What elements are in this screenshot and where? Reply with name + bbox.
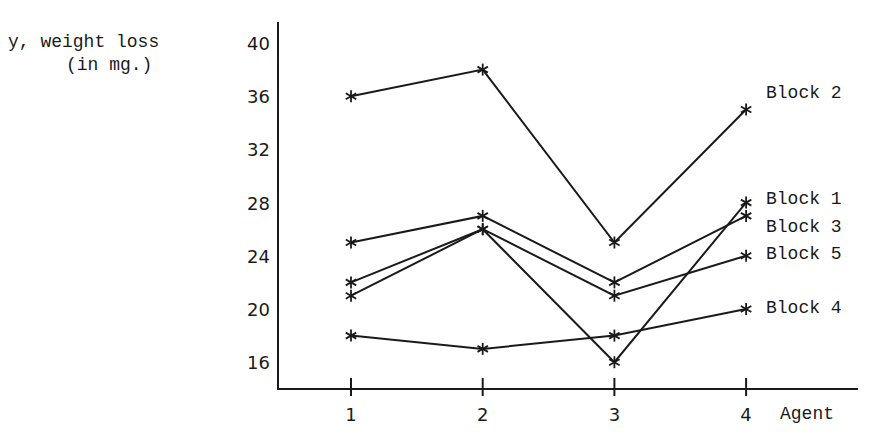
asterisk-marker-icon <box>346 290 356 302</box>
series-line-block-5 <box>351 229 746 296</box>
plot-area <box>0 0 883 441</box>
series-line-block-1 <box>351 203 746 363</box>
series-line-block-4 <box>351 309 746 349</box>
asterisk-marker-icon <box>609 276 619 288</box>
asterisk-marker-icon <box>741 210 751 222</box>
x-tick-marks <box>351 378 746 396</box>
series-markers <box>346 64 752 369</box>
series-lines <box>351 70 746 363</box>
series-line-block-3 <box>351 216 746 283</box>
asterisk-marker-icon <box>741 250 751 262</box>
asterisk-marker-icon <box>346 276 356 288</box>
series-line-block-2 <box>351 70 746 243</box>
asterisk-marker-icon <box>609 290 619 302</box>
